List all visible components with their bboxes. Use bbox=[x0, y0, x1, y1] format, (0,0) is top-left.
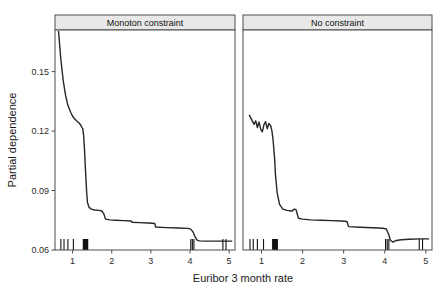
x-tick-label: 3 bbox=[341, 256, 346, 266]
y-tick-label: 0.09 bbox=[31, 186, 49, 196]
facet-panels: Monoton constraint12345No constraint1234… bbox=[55, 15, 432, 266]
panel-strip-label: Monoton constraint bbox=[107, 18, 184, 28]
x-tick-label: 5 bbox=[227, 256, 232, 266]
x-tick-label: 2 bbox=[300, 256, 305, 266]
panel-strip-label: No constraint bbox=[311, 18, 365, 28]
x-tick-label: 2 bbox=[109, 256, 114, 266]
y-tick-label: 0.12 bbox=[31, 126, 49, 136]
x-axis-title: Euribor 3 month rate bbox=[193, 272, 293, 284]
false bbox=[83, 239, 88, 250]
y-tick-label: 0.06 bbox=[31, 245, 49, 255]
panel-background bbox=[243, 30, 432, 250]
panel-background bbox=[55, 30, 235, 250]
x-tick-label: 4 bbox=[382, 256, 387, 266]
facet-panel: Monoton constraint12345 bbox=[55, 15, 235, 266]
y-tick-label: 0.15 bbox=[31, 67, 49, 77]
x-tick-label: 1 bbox=[259, 256, 264, 266]
y-tick-mark-group bbox=[52, 72, 56, 250]
x-tick-label: 3 bbox=[148, 256, 153, 266]
x-tick-label: 4 bbox=[187, 256, 192, 266]
x-tick-label: 1 bbox=[70, 256, 75, 266]
facet-panel: No constraint12345 bbox=[243, 15, 432, 266]
partial-dependence-figure: Partial dependence Euribor 3 month rate … bbox=[0, 0, 448, 289]
chart-canvas: Partial dependence Euribor 3 month rate … bbox=[0, 0, 448, 289]
y-tick-label-group: 0.060.090.120.15 bbox=[31, 67, 49, 255]
y-axis-title: Partial dependence bbox=[6, 93, 18, 188]
x-tick-label: 5 bbox=[423, 256, 428, 266]
false bbox=[272, 239, 278, 250]
